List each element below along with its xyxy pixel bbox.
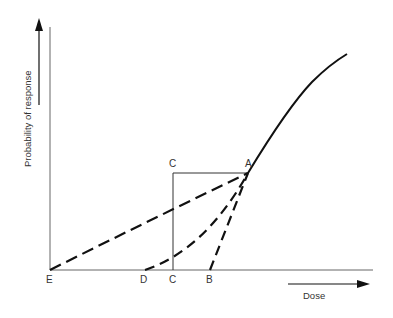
observed-response-curve [248, 54, 347, 173]
y-axis-label: Probability of response [22, 70, 33, 167]
label-point-B: B [206, 274, 213, 285]
label-point-A: A [245, 158, 252, 169]
label-point-C-top: C [169, 158, 176, 169]
x-axis-arrow-head-icon [357, 280, 370, 288]
x-axis-label: Dose [303, 290, 325, 301]
label-point-D: D [140, 274, 147, 285]
dose-response-diagram: Probability of response Dose C A E D C B [0, 0, 393, 318]
extrapolation-curve-D [145, 173, 248, 270]
label-point-C-bottom: C [169, 274, 176, 285]
y-axis-arrow-head-icon [35, 18, 43, 31]
label-point-E: E [46, 274, 53, 285]
extrapolation-curve-E [50, 173, 248, 270]
